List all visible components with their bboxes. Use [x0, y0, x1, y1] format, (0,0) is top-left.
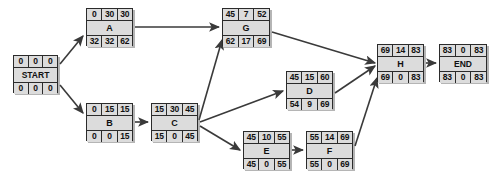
node-c-top-row: 15 30 45	[152, 104, 197, 116]
node-e-late-start: 45	[244, 159, 258, 170]
node-start-label: START	[14, 68, 57, 82]
node-g[interactable]: 45 7 52 G 62 17 69	[222, 8, 270, 46]
node-g-early-start: 45	[223, 9, 238, 20]
node-a-early-start: 0	[87, 9, 101, 20]
node-end-late-finish: 83	[471, 72, 486, 83]
node-e-top-row: 45 10 55	[244, 132, 289, 144]
node-a-duration: 30	[101, 9, 117, 20]
node-g-label: G	[223, 21, 269, 35]
node-end-early-start: 83	[440, 45, 455, 56]
node-h-top-row: 69 14 83	[378, 45, 423, 57]
node-c-label: C	[152, 116, 197, 130]
node-c-duration: 30	[166, 104, 182, 115]
node-c-late-finish: 45	[183, 131, 197, 142]
node-a-late-start: 32	[87, 36, 101, 47]
node-b-label: B	[87, 116, 132, 130]
node-end-early-finish: 83	[471, 45, 486, 56]
node-a-slack: 32	[101, 36, 117, 47]
node-c[interactable]: 15 30 45 C 15 0 45	[151, 103, 198, 141]
node-f-duration: 14	[321, 132, 337, 143]
node-d-early-start: 45	[287, 72, 301, 83]
node-d[interactable]: 45 15 60 D 54 9 69	[286, 71, 333, 109]
node-d-early-finish: 60	[318, 72, 332, 83]
node-d-top-row: 45 15 60	[287, 72, 332, 84]
node-b-late-finish: 15	[118, 131, 132, 142]
node-d-duration: 15	[301, 72, 317, 83]
edge-start-b	[60, 85, 83, 113]
node-start[interactable]: 0 0 0 START 0 0 0	[13, 55, 58, 93]
network-diagram: 0 0 0 START 0 0 0 0 30 30 A 32 32 62 0 1…	[0, 0, 500, 183]
node-a-early-finish: 30	[118, 9, 132, 20]
node-d-slack: 9	[301, 99, 317, 110]
node-h-late-finish: 83	[409, 72, 423, 83]
edge-f-h	[355, 78, 377, 146]
node-b-top-row: 0 15 15	[87, 104, 132, 116]
node-g-late-finish: 69	[254, 36, 269, 47]
edge-start-a	[60, 36, 83, 64]
node-c-early-start: 15	[152, 104, 166, 115]
node-a-late-finish: 62	[118, 36, 132, 47]
node-f-late-finish: 69	[338, 159, 352, 170]
node-h[interactable]: 69 14 83 H 69 0 83	[377, 44, 424, 82]
node-end-label: END	[440, 57, 486, 71]
node-g-top-row: 45 7 52	[223, 9, 269, 21]
node-b-bottom-row: 0 0 15	[87, 130, 132, 142]
node-c-late-start: 15	[152, 131, 166, 142]
node-c-early-finish: 45	[183, 104, 197, 115]
node-b-early-start: 0	[87, 104, 101, 115]
node-h-bottom-row: 69 0 83	[378, 71, 423, 83]
node-f-slack: 0	[321, 159, 337, 170]
node-h-early-finish: 83	[409, 45, 423, 56]
node-g-duration: 7	[238, 9, 255, 20]
edge-c-e	[200, 126, 240, 150]
node-g-slack: 17	[238, 36, 255, 47]
node-d-bottom-row: 54 9 69	[287, 98, 332, 110]
node-a-bottom-row: 32 32 62	[87, 35, 132, 47]
node-start-bottom-row: 0 0 0	[14, 82, 57, 94]
node-h-late-start: 69	[378, 72, 392, 83]
node-d-late-start: 54	[287, 99, 301, 110]
node-a[interactable]: 0 30 30 A 32 32 62	[86, 8, 133, 46]
node-g-late-start: 62	[223, 36, 238, 47]
node-c-bottom-row: 15 0 45	[152, 130, 197, 142]
node-e-label: E	[244, 144, 289, 158]
node-a-label: A	[87, 21, 132, 35]
node-b-late-start: 0	[87, 131, 101, 142]
node-end-duration: 0	[455, 45, 472, 56]
node-f-label: F	[307, 144, 352, 158]
node-g-early-finish: 52	[254, 9, 269, 20]
node-b-early-finish: 15	[118, 104, 132, 115]
node-b[interactable]: 0 15 15 B 0 0 15	[86, 103, 133, 141]
node-g-bottom-row: 62 17 69	[223, 35, 269, 47]
node-end-top-row: 83 0 83	[440, 45, 486, 57]
node-e[interactable]: 45 10 55 E 45 0 55	[243, 131, 290, 169]
edge-c-g	[199, 40, 222, 120]
node-f-top-row: 55 14 69	[307, 132, 352, 144]
node-f-bottom-row: 55 0 69	[307, 158, 352, 170]
node-end[interactable]: 83 0 83 END 83 0 83	[439, 44, 487, 82]
node-e-late-finish: 55	[275, 159, 289, 170]
node-start-top-row: 0 0 0	[14, 56, 57, 68]
node-start-duration: 0	[28, 56, 44, 67]
node-c-slack: 0	[166, 131, 182, 142]
node-f-late-start: 55	[307, 159, 321, 170]
node-f-early-finish: 69	[338, 132, 352, 143]
edge-d-h	[335, 66, 375, 93]
node-end-slack: 0	[455, 72, 472, 83]
node-b-slack: 0	[101, 131, 117, 142]
node-start-early-start: 0	[14, 56, 28, 67]
node-f[interactable]: 55 14 69 F 55 0 69	[306, 131, 353, 169]
node-e-early-start: 45	[244, 132, 258, 143]
node-end-late-start: 83	[440, 72, 455, 83]
edge-c-d	[200, 91, 283, 122]
node-e-bottom-row: 45 0 55	[244, 158, 289, 170]
node-start-late-start: 0	[14, 83, 28, 94]
node-start-slack: 0	[28, 83, 44, 94]
node-f-early-start: 55	[307, 132, 321, 143]
node-end-bottom-row: 83 0 83	[440, 71, 486, 83]
node-b-duration: 15	[101, 104, 117, 115]
node-start-late-finish: 0	[43, 83, 57, 94]
node-h-label: H	[378, 57, 423, 71]
node-a-top-row: 0 30 30	[87, 9, 132, 21]
edge-g-h	[272, 32, 375, 63]
